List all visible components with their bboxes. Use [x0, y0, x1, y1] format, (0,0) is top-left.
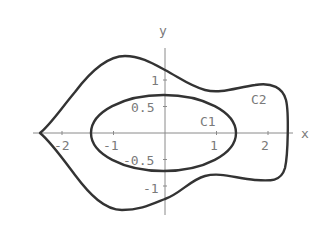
y-tick-label: 1 [151, 73, 159, 88]
x-tick-label: -2 [54, 138, 70, 153]
y-tick-label: 0.5 [131, 100, 154, 115]
x-axis-label: x [301, 126, 309, 141]
y-tick-label: -0.5 [123, 153, 154, 168]
x-tick-label: -1 [103, 138, 119, 153]
y-tick-label: -1 [143, 181, 159, 196]
plot-area: -2 -1 1 2 1 0.5 -0.5 -1 y x C1 C2 [0, 0, 324, 232]
c2-label: C2 [251, 92, 267, 107]
x-tick-label: 2 [261, 138, 269, 153]
x-tick-label: 1 [210, 138, 218, 153]
y-axis-label: y [159, 23, 167, 38]
c1-label: C1 [200, 114, 216, 129]
chart: -2 -1 1 2 1 0.5 -0.5 -1 y x C1 C2 [0, 0, 324, 232]
